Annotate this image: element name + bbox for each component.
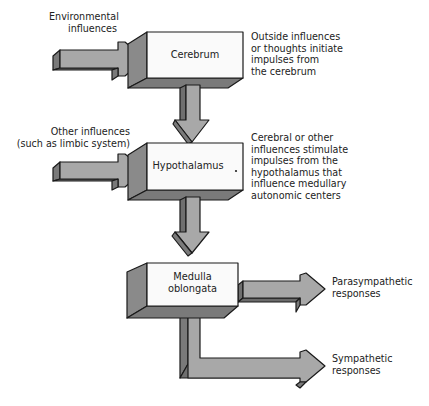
node-cerebrum: Cerebrum	[147, 49, 243, 61]
output-parasympathetic-label: Parasympathetic responses	[332, 276, 413, 299]
node-medulla: Medulla oblongata	[147, 271, 238, 295]
input-other-label: Other influences (such as limbic system)	[12, 126, 130, 149]
arrow-medulla-to-parasympathetic	[238, 273, 325, 312]
node-hypothalamus: Hypothalamus	[140, 160, 236, 172]
arrow-cerebrum-to-hypothalamus	[173, 85, 209, 144]
output-sympathetic-label: Sympathetic responses	[332, 353, 393, 376]
arrow-medulla-to-sympathetic	[180, 308, 325, 388]
input-environmental-label: Environmental influences	[49, 11, 117, 34]
annotation-cerebrum: Outside influences or thoughts initiate …	[251, 31, 343, 77]
arrow-hypothalamus-to-medulla	[172, 197, 209, 256]
annotation-hypothalamus: Cerebral or other influences stimulate i…	[251, 132, 348, 202]
